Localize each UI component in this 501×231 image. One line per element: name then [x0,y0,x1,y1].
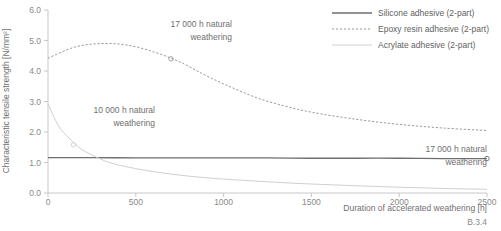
chart-figure: 0.01.02.03.04.05.06.0 050010001500200025… [0,0,501,231]
legend-label-silicone[interactable]: Silicone adhesive (2-part) [378,8,475,18]
chart-background [0,0,501,231]
y-tick-label: 2.0 [29,127,41,137]
legend-label-acrylate[interactable]: Acrylate adhesive (2-part) [378,40,475,50]
annotation-epoxy-line2: weathering [189,32,232,42]
legend-label-epoxy[interactable]: Epoxy resin adhesive (2-part) [378,24,489,34]
annotation-acrylate-line1: 10 000 h natural [94,105,156,115]
annotation-silicone-line1: 17 000 h natural [426,144,488,154]
x-tick-label: 1000 [214,197,233,207]
y-tick-label: 0.0 [29,188,41,198]
y-tick-label: 5.0 [29,36,41,46]
annotation-silicone-line2: weathering [444,157,487,167]
x-tick-label: 500 [129,197,143,207]
annotation-acrylate-line2: weathering [112,118,155,128]
y-tick-label: 3.0 [29,97,41,107]
y-axis-title: Characteristic tensile strength [N/mm²] [1,29,11,174]
y-tick-label: 4.0 [29,66,41,76]
annotation-epoxy-line1: 17 000 h natural [171,19,233,29]
x-tick-label: 0 [46,197,51,207]
y-tick-label: 1.0 [29,158,41,168]
x-tick-label: 1500 [302,197,321,207]
figure-number: B.3.4 [467,217,487,227]
series-line-silicone [48,158,487,159]
y-tick-label: 6.0 [29,5,41,15]
x-axis-title: Duration of accelerated weathering [h] [343,203,487,213]
